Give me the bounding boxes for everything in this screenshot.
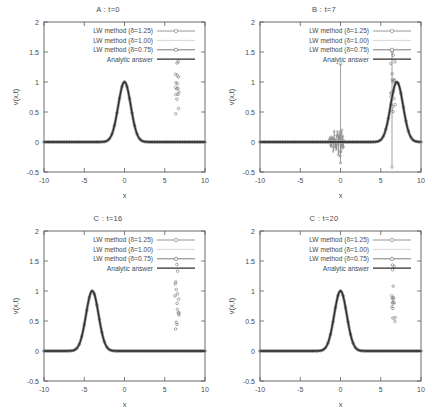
svg-text:1.5: 1.5 [245,258,255,265]
svg-text:x: x [123,191,127,200]
svg-text:-0.5: -0.5 [27,169,39,176]
svg-text:-10: -10 [255,177,265,184]
svg-text:-10: -10 [39,386,49,393]
svg-text:2: 2 [35,228,39,235]
svg-text:10: 10 [201,177,209,184]
svg-text:LW method (δ=1.25): LW method (δ=1.25) [93,236,153,244]
svg-text:LW method (δ=1.25): LW method (δ=1.25) [93,27,153,35]
svg-text:0: 0 [251,348,255,355]
svg-text:5: 5 [379,386,383,393]
svg-text:-0.5: -0.5 [243,378,255,385]
svg-text:v(x,t): v(x,t) [11,297,20,314]
svg-text:5: 5 [379,177,383,184]
svg-text:LW method (δ=1.25): LW method (δ=1.25) [309,236,369,244]
svg-text:10: 10 [417,177,425,184]
svg-text:Analytic answer: Analytic answer [107,56,154,64]
svg-text:-5: -5 [297,177,303,184]
panel-c: C : t=16 -10-50510-0.500.511.52xv(x,t)LW… [0,209,216,419]
svg-text:LW method (δ=0.75): LW method (δ=0.75) [309,255,369,263]
svg-text:0: 0 [123,386,127,393]
svg-text:-0.5: -0.5 [27,378,39,385]
svg-text:10: 10 [417,386,425,393]
svg-text:Analytic answer: Analytic answer [107,265,154,273]
svg-text:1: 1 [251,288,255,295]
svg-text:-10: -10 [255,386,265,393]
svg-text:0: 0 [35,139,39,146]
svg-text:2: 2 [251,228,255,235]
svg-text:0.5: 0.5 [29,318,39,325]
plot-c: -10-50510-0.500.511.52xv(x,t)LW method (… [0,209,216,419]
svg-text:10: 10 [201,386,209,393]
svg-text:LW method (δ=1.00): LW method (δ=1.00) [309,246,369,254]
svg-text:0.5: 0.5 [245,318,255,325]
svg-text:0: 0 [339,177,343,184]
svg-text:1: 1 [251,79,255,86]
svg-text:x: x [123,400,127,409]
svg-text:2: 2 [251,19,255,26]
svg-text:v(x,t): v(x,t) [227,297,236,314]
svg-text:0: 0 [339,386,343,393]
panel-d: C : t=20 -10-50510-0.500.511.52xv(x,t)LW… [216,209,432,419]
svg-text:1.5: 1.5 [245,49,255,56]
svg-text:0.5: 0.5 [29,109,39,116]
svg-text:LW method (δ=0.75): LW method (δ=0.75) [93,46,153,54]
svg-text:x: x [339,400,343,409]
svg-text:5: 5 [163,386,167,393]
svg-text:x: x [339,191,343,200]
svg-text:0: 0 [251,139,255,146]
figure-multi-panel: A : t=0 -10-50510-0.500.511.52xv(x,t)LW … [0,0,432,419]
svg-text:v(x,t): v(x,t) [227,88,236,105]
svg-text:-0.5: -0.5 [243,169,255,176]
svg-text:1: 1 [35,79,39,86]
plot-a: -10-50510-0.500.511.52xv(x,t)LW method (… [0,0,216,210]
svg-text:-5: -5 [81,386,87,393]
svg-text:0: 0 [35,348,39,355]
svg-text:LW method (δ=0.75): LW method (δ=0.75) [309,46,369,54]
svg-text:1.5: 1.5 [29,258,39,265]
panel-a: A : t=0 -10-50510-0.500.511.52xv(x,t)LW … [0,0,216,210]
svg-text:v(x,t): v(x,t) [11,88,20,105]
svg-text:Analytic answer: Analytic answer [323,265,370,273]
svg-text:2: 2 [35,19,39,26]
svg-text:-10: -10 [39,177,49,184]
plot-d: -10-50510-0.500.511.52xv(x,t)LW method (… [216,209,432,419]
svg-text:LW method (δ=0.75): LW method (δ=0.75) [93,255,153,263]
svg-text:LW method (δ=1.00): LW method (δ=1.00) [93,37,153,45]
svg-text:Analytic answer: Analytic answer [323,56,370,64]
svg-text:0: 0 [123,177,127,184]
svg-text:LW method (δ=1.00): LW method (δ=1.00) [309,37,369,45]
svg-text:5: 5 [163,177,167,184]
svg-text:-5: -5 [81,177,87,184]
svg-text:-5: -5 [297,386,303,393]
svg-text:0.5: 0.5 [245,109,255,116]
plot-b: -10-50510-0.500.511.52xv(x,t)LW method (… [216,0,432,210]
svg-text:1.5: 1.5 [29,49,39,56]
svg-text:LW method (δ=1.00): LW method (δ=1.00) [93,246,153,254]
svg-text:1: 1 [35,288,39,295]
panel-b: B : t=7 -10-50510-0.500.511.52xv(x,t)LW … [216,0,432,210]
svg-text:LW method (δ=1.25): LW method (δ=1.25) [309,27,369,35]
